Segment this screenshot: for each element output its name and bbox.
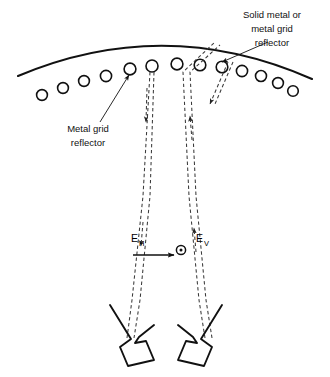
grid-circle — [216, 61, 228, 73]
label-solid-reflector-line2: metal grid — [251, 23, 293, 34]
ray-arrow-reflected — [210, 62, 228, 104]
grid-circle — [273, 78, 284, 89]
ray-arrow-up — [190, 116, 192, 140]
ray-path-left — [127, 72, 154, 338]
label-e-vertical-subscript: V — [204, 239, 209, 248]
label-solid-reflector-line3: reflector — [255, 37, 289, 48]
label-e-vertical-base: E — [196, 232, 203, 244]
label-solid-reflector: Solid metal or metal grid reflector — [243, 9, 301, 48]
grid-circle — [100, 70, 111, 81]
circle-dot-icon — [176, 245, 185, 254]
grid-circle — [79, 76, 90, 87]
label-e-horizontal-base: E — [131, 232, 138, 244]
ray-path-right — [183, 42, 233, 338]
label-grid-reflector: Metal grid reflector — [67, 123, 109, 148]
grid-circle — [256, 71, 267, 82]
solid-metal-reflector-arc — [18, 46, 312, 79]
label-grid-reflector-line1: Metal grid — [67, 123, 109, 134]
grid-circle — [124, 63, 136, 75]
grid-circle — [58, 83, 69, 94]
grid-circle — [194, 59, 206, 71]
label-e-vertical: E V — [196, 232, 209, 248]
label-e-horizontal-subscript: H — [139, 239, 144, 248]
antenna-diagram: Solid metal or metal grid reflector Meta… — [0, 0, 330, 377]
feed-horn-left — [110, 305, 154, 366]
metal-grid-circle-row — [37, 58, 299, 100]
ray-arrow-down — [146, 88, 147, 122]
diagram-canvas: Solid metal or metal grid reflector Meta… — [0, 0, 330, 377]
feed-horn-right — [178, 305, 222, 366]
grid-circle — [171, 58, 183, 70]
label-solid-reflector-line1: Solid metal or — [243, 9, 301, 20]
grid-circle — [288, 86, 299, 97]
label-grid-reflector-line2: reflector — [71, 137, 105, 148]
grid-circle — [236, 65, 247, 76]
grid-circle — [37, 90, 48, 101]
grid-circle — [146, 60, 158, 72]
